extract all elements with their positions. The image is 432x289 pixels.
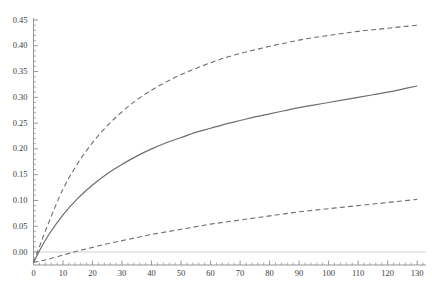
- chart-container: 0.000.050.100.150.200.250.300.350.400.45…: [0, 0, 432, 289]
- series-mean-estimate: [34, 86, 418, 262]
- x-tick-label: 130: [404, 269, 430, 278]
- x-tick-label: 120: [375, 269, 401, 278]
- x-axis: [34, 261, 427, 266]
- y-tick-label: 0.45: [0, 16, 28, 25]
- y-tick-label: 0.25: [0, 119, 28, 128]
- y-tick-label: 0.30: [0, 93, 28, 102]
- x-tick-label: 90: [286, 269, 312, 278]
- y-axis: [34, 18, 39, 265]
- x-tick-label: 10: [50, 269, 76, 278]
- x-tick-label: 50: [168, 269, 194, 278]
- x-tick-label: 40: [139, 269, 165, 278]
- y-tick-label: 0.35: [0, 67, 28, 76]
- x-tick-label: 100: [316, 269, 342, 278]
- y-tick-label: 0.40: [0, 41, 28, 50]
- data-series-group: [34, 25, 418, 262]
- y-tick-label: 0.05: [0, 222, 28, 231]
- x-tick-label: 20: [80, 269, 106, 278]
- x-tick-label: 30: [109, 269, 135, 278]
- x-tick-label: 80: [257, 269, 283, 278]
- y-tick-label: 0.10: [0, 196, 28, 205]
- x-tick-label: 110: [345, 269, 371, 278]
- y-tick-label: 0.20: [0, 144, 28, 153]
- series-upper-band: [34, 25, 418, 262]
- x-tick-label: 70: [227, 269, 253, 278]
- y-tick-label: 0.00: [0, 248, 28, 257]
- x-tick-label: 0: [21, 269, 47, 278]
- plot-area: [0, 0, 432, 289]
- y-tick-label: 0.15: [0, 170, 28, 179]
- series-lower-band: [34, 199, 418, 262]
- x-tick-label: 60: [198, 269, 224, 278]
